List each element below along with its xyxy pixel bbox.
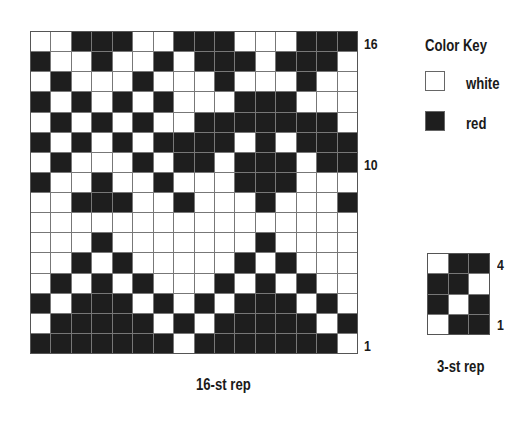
red-stitch-cell xyxy=(297,334,316,353)
red-stitch-cell xyxy=(154,92,173,111)
white-stitch-cell xyxy=(195,173,214,192)
red-stitch-cell xyxy=(154,52,173,71)
white-stitch-cell xyxy=(317,213,336,232)
white-stitch-cell xyxy=(133,173,152,192)
red-stitch-cell xyxy=(72,92,91,111)
white-stitch-cell xyxy=(72,173,91,192)
white-stitch-cell xyxy=(317,233,336,252)
white-stitch-cell xyxy=(31,253,50,272)
white-stitch-cell xyxy=(51,92,70,111)
red-stitch-cell xyxy=(51,334,70,353)
white-stitch-cell xyxy=(215,253,234,272)
red-stitch-cell xyxy=(297,133,316,152)
white-stitch-cell xyxy=(51,173,70,192)
red-stitch-cell xyxy=(449,254,469,273)
red-stitch-cell xyxy=(338,193,357,212)
red-stitch-cell xyxy=(256,193,275,212)
white-stitch-cell xyxy=(195,72,214,91)
red-stitch-cell xyxy=(154,173,173,192)
red-stitch-cell xyxy=(133,274,152,293)
white-stitch-cell xyxy=(276,233,295,252)
white-stitch-cell xyxy=(195,274,214,293)
white-stitch-cell xyxy=(256,32,275,51)
white-stitch-cell xyxy=(113,52,132,71)
white-stitch-cell xyxy=(256,72,275,91)
white-stitch-cell xyxy=(31,274,50,293)
white-stitch-cell xyxy=(297,173,316,192)
red-stitch-cell xyxy=(154,294,173,313)
white-stitch-cell xyxy=(113,153,132,172)
white-stitch-cell xyxy=(338,294,357,313)
white-stitch-cell xyxy=(469,274,489,293)
red-stitch-cell xyxy=(276,253,295,272)
white-stitch-cell xyxy=(51,233,70,252)
white-stitch-cell xyxy=(449,295,469,314)
red-stitch-cell xyxy=(256,133,275,152)
red-stitch-cell xyxy=(195,294,214,313)
white-stitch-cell xyxy=(317,193,336,212)
red-stitch-cell xyxy=(317,52,336,71)
red-stitch-cell xyxy=(317,133,336,152)
main-chart-grid xyxy=(30,31,358,354)
white-stitch-cell xyxy=(174,233,193,252)
red-stitch-cell xyxy=(449,274,469,293)
white-stitch-cell xyxy=(92,72,111,91)
white-stitch-cell xyxy=(317,314,336,333)
red-stitch-cell xyxy=(256,173,275,192)
red-stitch-cell xyxy=(174,153,193,172)
red-stitch-cell xyxy=(215,72,234,91)
red-stitch-cell xyxy=(72,133,91,152)
red-stitch-cell xyxy=(235,153,254,172)
white-stitch-cell xyxy=(297,193,316,212)
white-stitch-cell xyxy=(51,193,70,212)
white-stitch-cell xyxy=(235,133,254,152)
red-swatch xyxy=(425,111,445,131)
white-stitch-cell xyxy=(154,113,173,132)
white-stitch-cell xyxy=(154,153,173,172)
red-stitch-cell xyxy=(92,113,111,132)
red-stitch-cell xyxy=(133,334,152,353)
white-stitch-cell xyxy=(317,92,336,111)
white-stitch-cell xyxy=(317,274,336,293)
red-stitch-cell xyxy=(317,294,336,313)
white-stitch-cell xyxy=(72,233,91,252)
white-stitch-cell xyxy=(276,133,295,152)
white-stitch-cell xyxy=(235,274,254,293)
white-stitch-cell xyxy=(133,294,152,313)
red-stitch-cell xyxy=(31,52,50,71)
white-stitch-cell xyxy=(72,72,91,91)
red-stitch-cell xyxy=(317,113,336,132)
white-stitch-cell xyxy=(92,153,111,172)
red-stitch-cell xyxy=(276,113,295,132)
white-stitch-cell xyxy=(174,113,193,132)
white-stitch-cell xyxy=(72,213,91,232)
red-stitch-cell xyxy=(469,254,489,273)
red-stitch-cell xyxy=(428,274,448,293)
row-label-1: 1 xyxy=(364,337,371,354)
white-stitch-cell xyxy=(51,32,70,51)
red-stitch-cell xyxy=(256,314,275,333)
white-stitch-cell xyxy=(215,294,234,313)
red-stitch-cell xyxy=(113,314,132,333)
white-stitch-cell xyxy=(174,253,193,272)
red-stitch-cell xyxy=(51,274,70,293)
red-stitch-cell xyxy=(195,52,214,71)
white-stitch-cell xyxy=(338,334,357,353)
white-stitch-cell xyxy=(133,92,152,111)
red-stitch-cell xyxy=(51,314,70,333)
white-stitch-cell xyxy=(338,173,357,192)
white-stitch-cell xyxy=(72,274,91,293)
white-stitch-cell xyxy=(174,72,193,91)
white-stitch-cell xyxy=(154,233,173,252)
red-stitch-cell xyxy=(92,294,111,313)
red-stitch-cell xyxy=(195,153,214,172)
red-stitch-cell xyxy=(51,153,70,172)
white-stitch-cell xyxy=(51,213,70,232)
red-stitch-cell xyxy=(235,173,254,192)
white-stitch-cell xyxy=(338,274,357,293)
white-stitch-cell xyxy=(31,72,50,91)
red-stitch-cell xyxy=(72,334,91,353)
red-stitch-cell xyxy=(92,52,111,71)
white-stitch-cell xyxy=(154,213,173,232)
white-stitch-cell xyxy=(92,133,111,152)
